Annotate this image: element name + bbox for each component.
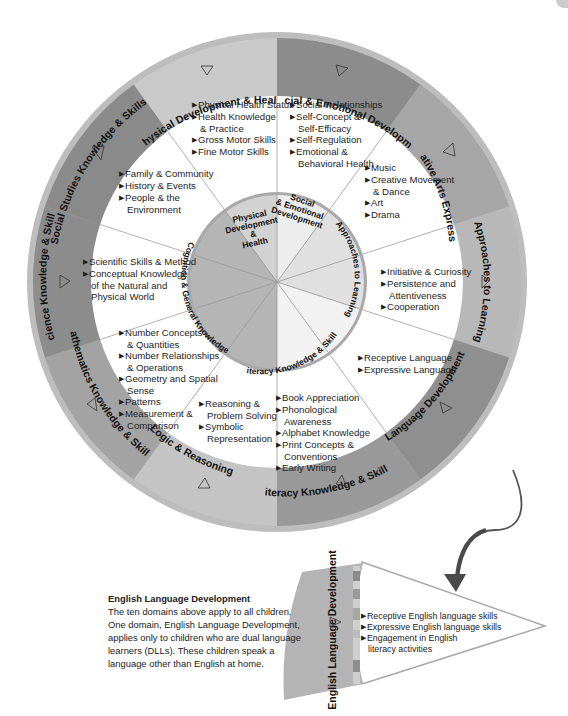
eld-color-chip [353, 660, 360, 672]
list-item: Awareness [276, 416, 370, 427]
list-item: & Dance [365, 186, 454, 197]
subdomains-creative-arts: Music Creative Movement & Dance Art Dram… [365, 162, 454, 221]
list-item: Health Knowledge [192, 111, 294, 123]
list-item: Expressive English language skills [361, 622, 501, 633]
list-item: Creative Movement [365, 174, 454, 186]
subdomains-social-emotional: Social Relationships Self-Concept & Self… [290, 99, 382, 169]
list-item: Comparison [119, 420, 219, 431]
list-item: Self-Efficacy [290, 123, 382, 134]
list-item: Physical World [83, 291, 196, 302]
list-item: Attentiveness [381, 290, 471, 301]
list-item: Conceptual Knowledge [83, 268, 196, 280]
list-item: Self-Concept & [290, 111, 382, 123]
list-item: Print Concepts & [276, 439, 370, 451]
list-item: Receptive English language skills [361, 611, 501, 622]
caption-title: English Language Development [108, 592, 308, 605]
arrow-head-icon [444, 574, 466, 592]
list-item: Expressive Language [358, 364, 456, 376]
list-item: Conventions [276, 451, 370, 462]
list-item: of the Natural and [83, 280, 196, 291]
list-item: Self-Regulation [290, 134, 382, 146]
list-item: Scientific Skills & Method [83, 256, 196, 268]
eld-color-chip [353, 630, 360, 638]
list-item: Physical Health Status [192, 99, 294, 111]
eld-color-chip [353, 608, 360, 620]
subdomains-social-studies: Family & Community History & Events Peop… [119, 168, 214, 215]
list-item: Engagement in English [361, 633, 501, 644]
list-item: Measurement & [119, 408, 219, 420]
list-item: Phonological [276, 404, 370, 416]
subdomains-math: Number Concepts & Quantities Number Rela… [119, 327, 219, 431]
list-item: Drama [365, 209, 454, 221]
eld-color-chip [353, 589, 360, 599]
list-item: literacy activities [361, 644, 501, 654]
list-item: Social Relationships [290, 99, 382, 111]
list-item: Gross Motor Skills [192, 134, 294, 146]
list-item: Book Appreciation [276, 392, 370, 404]
list-item: Emotional & [290, 146, 382, 158]
list-item: Art [365, 197, 454, 209]
list-item: & Operations [119, 362, 219, 373]
caption-body: The ten domains above apply to all child… [108, 605, 308, 670]
connector-curve [458, 470, 521, 578]
eld-color-chip [353, 571, 360, 581]
list-item: & Quantities [119, 339, 219, 350]
subdomains-science: Scientific Skills & Method Conceptual Kn… [83, 256, 196, 302]
list-item: Receptive Language [358, 352, 456, 364]
list-item: History & Events [119, 180, 214, 192]
list-item: Number Concepts [119, 327, 219, 339]
list-item: Family & Community [119, 168, 214, 180]
list-item: Cooperation [381, 301, 471, 313]
list-item: Music [365, 162, 454, 174]
list-item: Alphabet Knowledge [276, 427, 370, 439]
list-item: Fine Motor Skills [192, 146, 294, 158]
subdomains-language: Receptive Language Expressive Language [358, 352, 456, 376]
list-item: Sense [119, 385, 219, 396]
list-item: Patterns [119, 396, 219, 408]
list-item: Persistence and [381, 278, 471, 290]
subdomains-approaches: Initiative & Curiosity Persistence and A… [381, 266, 471, 313]
list-item: Number Relationships [119, 350, 219, 362]
subdomains-physical: Physical Health Status Health Knowledge … [192, 99, 294, 158]
subdomains-literacy: Book Appreciation Phonological Awareness… [276, 392, 370, 474]
eld-band-label: English Language Development [326, 550, 338, 710]
eld-caption: English Language Development The ten dom… [108, 592, 308, 670]
list-item: People & the [119, 192, 214, 204]
connector-thick [457, 530, 486, 576]
list-item: Early Writing [276, 462, 370, 474]
eld-subdomains: Receptive English language skills Expres… [361, 611, 501, 654]
list-item: Representation [199, 433, 277, 444]
list-item: Geometry and Spatial [119, 373, 219, 385]
list-item: Environment [119, 204, 214, 215]
list-item: Initiative & Curiosity [381, 266, 471, 278]
list-item: & Practice [192, 123, 294, 134]
